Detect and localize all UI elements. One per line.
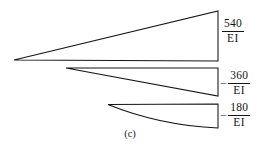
label-540-numerator: 540 <box>223 18 243 30</box>
spandrel-180-shape <box>108 104 218 128</box>
label-180-sign: − <box>220 110 226 121</box>
label-540-fraction: 540 EI <box>222 18 244 45</box>
label-360-fraction: 360 EI <box>228 70 250 97</box>
triangle-540-shape <box>14 11 218 61</box>
label-360: − 360 EI <box>220 70 250 97</box>
label-180-numerator: 180 <box>229 102 249 114</box>
label-180-fraction: 180 EI <box>228 102 250 129</box>
label-540-denominator: EI <box>226 33 240 45</box>
figure-caption: (c) <box>0 128 260 139</box>
label-540: 540 EI <box>222 18 244 45</box>
label-180-denominator: EI <box>232 117 246 129</box>
label-360-denominator: EI <box>232 85 246 97</box>
moment-diagram-figure: 540 EI − 360 EI − 180 EI (c) <box>0 0 260 146</box>
label-360-numerator: 360 <box>229 70 249 82</box>
label-180: − 180 EI <box>220 102 250 129</box>
label-360-sign: − <box>220 78 226 89</box>
triangle-360-shape <box>66 68 218 96</box>
